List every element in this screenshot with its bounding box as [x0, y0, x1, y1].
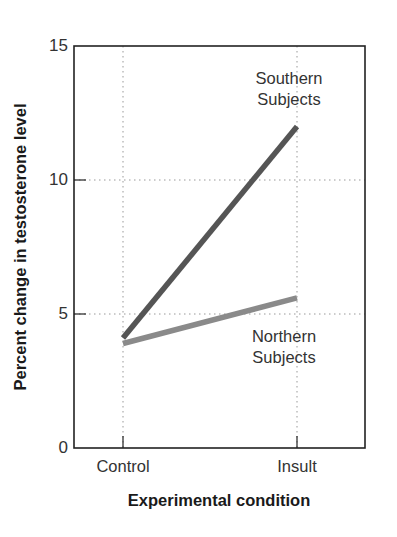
- x-axis-title: Experimental condition: [128, 491, 310, 510]
- northern-subjects-label: Northern Subjects: [252, 326, 316, 368]
- y-tick-label-5: 5: [38, 304, 68, 324]
- northern-label-line1: Northern: [252, 326, 316, 347]
- y-axis-title: Percent change in testosterone level: [11, 103, 30, 390]
- x-tick-label-insult: Insult: [277, 457, 316, 476]
- y-tick-label-10: 10: [38, 170, 68, 190]
- data-series: [123, 126, 297, 343]
- y-tick-label-0: 0: [38, 438, 68, 458]
- southern-label-line1: Southern: [256, 68, 323, 89]
- southern-label-line2: Subjects: [256, 89, 323, 110]
- x-tick-label-control: Control: [96, 457, 149, 476]
- northern-label-line2: Subjects: [252, 347, 316, 368]
- southern-subjects-label: Southern Subjects: [256, 68, 323, 110]
- y-tick-label-15: 15: [38, 36, 68, 56]
